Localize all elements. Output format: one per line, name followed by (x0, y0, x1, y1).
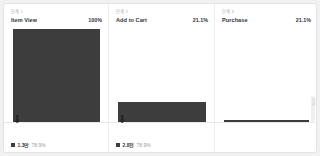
funnel-step-add-to-cart[interactable]: 단계 2 Add to Cart 21.1% ⬇ 2.8천 78.9% (109, 4, 215, 152)
step-conversion-rate: 100% (84, 16, 102, 24)
step-conversion-rate: 21.1% (189, 16, 208, 24)
step-name: Item View (11, 16, 37, 24)
bar-track (118, 29, 206, 122)
step-plot-area (215, 27, 317, 122)
step-name: Purchase (222, 16, 248, 24)
funnel-step-item-view[interactable]: 단계 1 Item View 100% ⬇ 1.3만 78.9% (4, 4, 109, 152)
legend-value: 1.3만 (18, 142, 30, 148)
funnel-step-purchase[interactable]: 단계 3 Purchase 21.1% (215, 4, 317, 152)
legend-swatch-icon (11, 143, 15, 147)
step-header: 단계 2 Add to Cart 21.1% (109, 4, 214, 27)
step-conversion-rate: 21.1% (292, 16, 311, 24)
bar[interactable] (13, 29, 100, 122)
bar[interactable] (118, 102, 206, 122)
step-title-row: Item View 100% (11, 16, 102, 24)
step-plot-area (4, 27, 108, 122)
step-index-label: 단계 3 (222, 9, 311, 15)
dropoff-arrow-icon: ⬇ (12, 113, 22, 125)
step-title-row: Purchase 21.1% (222, 16, 311, 24)
step-index-label: 단계 2 (116, 9, 208, 15)
step-header: 단계 3 Purchase 21.1% (215, 4, 317, 27)
bar-track (13, 29, 100, 122)
legend-value: 2.8천 (123, 142, 135, 148)
legend-percentage: 78.9% (136, 142, 150, 148)
legend-swatch-icon (116, 143, 120, 147)
step-title-row: Add to Cart 21.1% (116, 16, 208, 24)
step-header: 단계 1 Item View 100% (4, 4, 108, 27)
step-footer: ⬇ 1.3만 78.9% (4, 122, 108, 152)
step-plot-area (109, 27, 214, 122)
bar-track (224, 29, 309, 122)
legend-percentage: 78.9% (31, 142, 45, 148)
legend-row: 2.8천 78.9% (116, 142, 151, 148)
funnel-chart-card: 단계 1 Item View 100% ⬇ 1.3만 78.9% 단계 2 Ad… (3, 3, 317, 153)
legend-row: 1.3만 78.9% (11, 142, 46, 148)
step-footer: ⬇ 2.8천 78.9% (109, 122, 214, 152)
step-index-label: 단계 1 (11, 9, 102, 15)
edge-vertical-label: 전환 (310, 98, 316, 120)
dropoff-arrow-icon: ⬇ (117, 113, 127, 125)
step-footer (215, 122, 317, 152)
step-name: Add to Cart (116, 16, 147, 24)
